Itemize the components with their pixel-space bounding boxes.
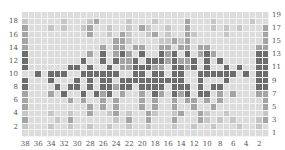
y-tick-label: 2	[6, 124, 18, 131]
chart-cell	[263, 117, 270, 124]
y-tick-label: 10	[6, 71, 18, 78]
y-tick-label: 4	[6, 110, 18, 117]
chart-cell	[263, 98, 270, 105]
chart-cell	[263, 124, 270, 131]
x-tick-label: 6	[226, 140, 240, 148]
chart-cell	[263, 78, 270, 85]
chart-cell	[263, 104, 270, 111]
x-tick-label: 12	[187, 140, 201, 148]
x-tick-label: 24	[109, 140, 123, 148]
chart-cell	[263, 45, 270, 52]
chart-cell	[263, 71, 270, 78]
x-tick-label: 10	[200, 140, 214, 148]
x-tick-label: 28	[83, 140, 97, 148]
chart-cell	[263, 12, 270, 19]
x-tick-label: 18	[148, 140, 162, 148]
x-tick-label: 22	[122, 140, 136, 148]
y-tick-label: 15	[272, 38, 281, 45]
y-tick-label: 14	[6, 45, 18, 52]
x-tick-label: 2	[252, 140, 266, 148]
y-tick-label: 16	[6, 32, 18, 39]
y-tick-label: 8	[6, 84, 18, 91]
chart-cell	[263, 111, 270, 118]
y-tick-label: 11	[272, 64, 281, 71]
x-tick-label: 32	[57, 140, 71, 148]
chart-cell	[263, 19, 270, 26]
x-tick-label: 20	[135, 140, 149, 148]
x-tick-label: 14	[174, 140, 188, 148]
x-tick-label: 38	[18, 140, 32, 148]
y-tick-label: 9	[272, 78, 276, 85]
y-tick-label: 7	[272, 91, 276, 98]
y-tick-label: 6	[6, 97, 18, 104]
y-tick-label: 5	[272, 104, 276, 111]
x-tick-label: 26	[96, 140, 110, 148]
x-tick-label: 8	[213, 140, 227, 148]
chart-cell	[263, 32, 270, 39]
y-tick-label: 3	[272, 117, 276, 124]
y-tick-label: 1	[272, 130, 276, 137]
chart-cell	[263, 84, 270, 91]
x-tick-label: 34	[44, 140, 58, 148]
x-tick-label: 30	[70, 140, 84, 148]
y-tick-label: 19	[272, 12, 281, 19]
chart-cell	[263, 58, 270, 65]
chart-cell	[263, 38, 270, 45]
chart-cell	[263, 25, 270, 32]
chart-cell	[263, 91, 270, 98]
x-tick-label: 36	[31, 140, 45, 148]
x-tick-label: 4	[239, 140, 253, 148]
chart-cell	[263, 65, 270, 72]
y-tick-label: 18	[6, 18, 18, 25]
chart-cell	[263, 130, 270, 137]
chart-cell	[263, 51, 270, 58]
x-tick-label: 16	[161, 140, 175, 148]
y-tick-label: 13	[272, 51, 281, 58]
y-tick-label: 17	[272, 25, 281, 32]
y-tick-label: 12	[6, 58, 18, 65]
knitting-chart-grid	[22, 12, 269, 137]
